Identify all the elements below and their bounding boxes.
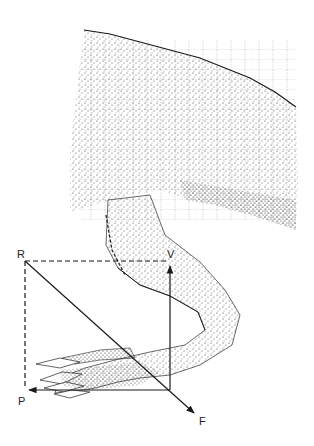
label-v: V — [167, 249, 174, 260]
label-f: F — [199, 416, 206, 427]
label-r: R — [17, 249, 25, 260]
label-p: P — [18, 396, 25, 407]
limb-illustration — [36, 195, 240, 398]
limb-force-diagram: R V P F — [0, 0, 314, 446]
body-illustration — [70, 30, 298, 230]
